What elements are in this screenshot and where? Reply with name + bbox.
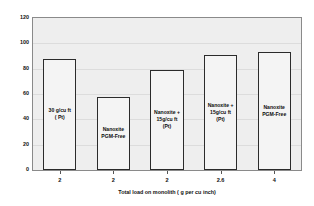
bar: Nanoxite + 15g/cu ft (Pt) bbox=[150, 70, 183, 170]
y-axis-tick-label: 80 bbox=[12, 65, 29, 71]
x-axis-tick-marks bbox=[32, 171, 302, 175]
bar: Nanoxite PGM-Free bbox=[97, 97, 130, 170]
y-axis-tick-labels: 020406080100120 bbox=[12, 14, 29, 171]
x-axis-tick-mark bbox=[221, 171, 222, 174]
bar-chart: % CO Conversion at 350 (C) 0204060801001… bbox=[0, 0, 314, 206]
x-axis-tick-mark bbox=[274, 171, 275, 174]
y-axis-tick-label: 100 bbox=[12, 39, 29, 45]
y-axis-tick-label: 60 bbox=[12, 90, 29, 96]
x-axis-tick-labels: 2222.64 bbox=[32, 176, 302, 185]
bar-label: Nanoxite PGM-Free bbox=[100, 126, 126, 140]
x-axis-tick-label: 2 bbox=[165, 176, 168, 185]
bar-series: 30 g/cu ft ( Pt)Nanoxite PGM-FreeNanoxit… bbox=[33, 18, 301, 170]
bar-label: 30 g/cu ft ( Pt) bbox=[48, 107, 72, 121]
y-axis-tick-label: 120 bbox=[12, 14, 29, 20]
bar-label: Nanoxite + 15g/cu ft (Pt) bbox=[207, 102, 235, 123]
x-axis-tick-mark bbox=[60, 171, 61, 174]
bar-label: Nanoxite + 15g/cu ft (Pt) bbox=[153, 109, 181, 130]
x-axis-title: Total load on monolith ( g per cu inch) bbox=[32, 188, 302, 196]
y-axis-tick-label: 40 bbox=[12, 115, 29, 121]
plot-area: 30 g/cu ft ( Pt)Nanoxite PGM-FreeNanoxit… bbox=[32, 17, 302, 171]
x-axis-tick-label: 2 bbox=[112, 176, 115, 185]
bar-label: Nanoxite PGM-Free bbox=[261, 104, 287, 118]
x-axis-tick-label: 4 bbox=[273, 176, 276, 185]
x-axis-tick-mark bbox=[167, 171, 168, 174]
x-axis-tick-mark bbox=[113, 171, 114, 174]
x-axis-tick-label: 2 bbox=[58, 176, 61, 185]
bar: Nanoxite PGM-Free bbox=[258, 52, 291, 170]
y-axis-tick-label: 20 bbox=[12, 141, 29, 147]
y-axis-tick-label: 0 bbox=[12, 166, 29, 172]
bar: Nanoxite + 15g/cu ft (Pt) bbox=[204, 55, 237, 170]
x-axis-tick-label: 2.6 bbox=[217, 176, 225, 185]
bar: 30 g/cu ft ( Pt) bbox=[43, 59, 76, 170]
